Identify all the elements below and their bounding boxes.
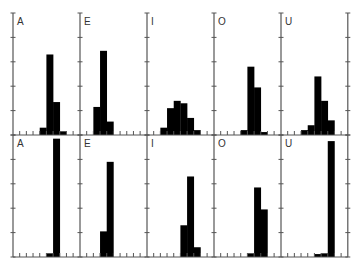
histogram-bar	[321, 253, 328, 257]
histogram-bar	[53, 102, 60, 135]
histogram-bar	[254, 87, 261, 135]
histogram-bar	[107, 122, 114, 135]
panel-label: I	[151, 138, 154, 149]
histogram-bar	[174, 101, 181, 135]
panel-bottom-e: E	[78, 135, 147, 257]
histogram-bar	[301, 130, 308, 135]
histogram-bar	[187, 118, 194, 135]
histogram-bar	[308, 125, 315, 135]
histogram-bar	[100, 231, 107, 257]
histogram-bar	[53, 139, 60, 257]
histogram-bar	[194, 130, 201, 135]
histogram-bar	[107, 162, 114, 257]
histogram-bar	[60, 131, 67, 135]
histogram-bar	[328, 141, 335, 257]
histogram-bar	[194, 247, 201, 257]
histogram-bar	[314, 76, 321, 135]
histogram-bar	[241, 130, 248, 135]
histogram-bar	[46, 54, 53, 135]
histogram-bar	[247, 67, 254, 135]
panel-bottom-i: I	[145, 135, 214, 257]
histogram-bar	[187, 176, 194, 257]
histogram-bar	[254, 187, 261, 257]
panel-label: A	[17, 16, 24, 27]
panel-label: U	[285, 16, 292, 27]
panel-label: E	[84, 138, 91, 149]
histogram-bar	[328, 120, 335, 135]
histogram-bar	[247, 253, 254, 257]
histogram-bar	[100, 51, 107, 135]
panel-label: O	[218, 16, 226, 27]
panel-top-i: I	[145, 13, 214, 135]
panel-top-o: O	[212, 13, 281, 135]
panel-top-u: U	[279, 13, 348, 135]
histogram-bar	[40, 128, 47, 135]
histogram-bar	[180, 103, 187, 135]
histogram-bar	[46, 253, 53, 257]
panel-label: E	[84, 16, 91, 27]
panel-top-a: A	[11, 13, 80, 135]
panel-label: A	[17, 138, 24, 149]
panel-bottom-a: A	[11, 135, 80, 257]
panel-label: O	[218, 138, 226, 149]
histogram-bar	[167, 108, 174, 135]
histogram-grid: AEIOUAEIOU	[0, 0, 360, 271]
histogram-bar	[160, 128, 167, 135]
panel-bottom-u: U	[279, 135, 348, 257]
panel-label: U	[285, 138, 292, 149]
histogram-bar	[180, 225, 187, 257]
panel-label: I	[151, 16, 154, 27]
histogram-bar	[261, 209, 268, 257]
histogram-bar	[93, 107, 100, 135]
panel-top-e: E	[78, 13, 147, 135]
histogram-bar	[321, 101, 328, 135]
panel-bottom-o: O	[212, 135, 281, 257]
